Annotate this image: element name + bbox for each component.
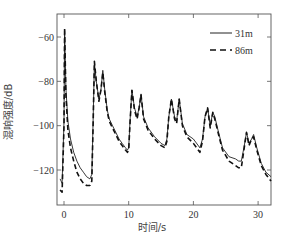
x-tick-label: 0 [62,209,67,220]
x-axis-ticks: 0102030 [62,14,264,220]
legend-label-86m: 86m [235,45,253,56]
x-tick-label: 30 [253,209,263,220]
x-axis-label: 时间/s [138,221,167,233]
x-tick-label: 20 [188,209,198,220]
y-axis-label: 混响强度/dB [2,84,14,141]
reverberation-chart: 0102030 −60−80−100−120 时间/s 混响强度/dB 31m … [0,0,288,246]
legend-label-31m: 31m [235,28,253,39]
y-tick-label: −60 [38,32,54,43]
legend: 31m 86m [210,28,253,56]
y-tick-label: −100 [33,120,54,131]
y-tick-label: −80 [38,76,54,87]
plot-frame [57,14,271,205]
x-tick-label: 10 [124,209,134,220]
y-tick-label: −120 [33,165,54,176]
